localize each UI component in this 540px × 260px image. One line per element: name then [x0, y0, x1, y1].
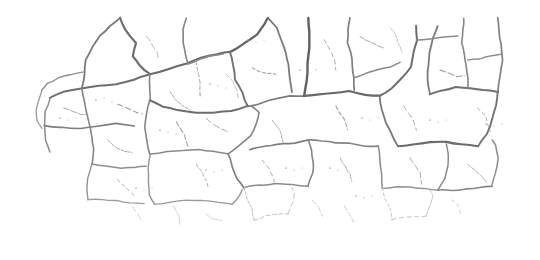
speckle-dot-23 — [301, 167, 302, 168]
speckle-dot-5 — [225, 87, 226, 88]
speckle-dot-3 — [209, 83, 211, 85]
speckle-dot-20 — [221, 169, 222, 170]
speckle-dot-35 — [501, 123, 502, 124]
speckle-dot-28 — [143, 189, 144, 190]
speckle-dot-2 — [111, 101, 112, 102]
image-background — [0, 0, 540, 260]
speckle-dot-0 — [95, 99, 97, 101]
speckle-dot-11 — [315, 69, 316, 70]
speckle-dot-13 — [369, 119, 370, 120]
speckle-dot-24 — [355, 195, 357, 197]
speckle-dot-32 — [75, 117, 76, 118]
speckle-dot-4 — [217, 85, 218, 86]
speckle-dot-30 — [59, 117, 61, 119]
speckle-dot-19 — [213, 171, 214, 172]
speckle-dot-16 — [437, 121, 438, 122]
speckle-dot-38 — [263, 39, 264, 40]
speckle-dot-10 — [307, 71, 308, 72]
speckle-dot-34 — [493, 125, 494, 126]
speckle-dot-37 — [255, 41, 256, 42]
speckle-dot-36 — [247, 39, 249, 41]
speckle-dot-9 — [299, 69, 301, 71]
speckle-dot-15 — [429, 119, 431, 121]
speckle-dot-39 — [329, 167, 331, 169]
crack-pattern-image — [0, 0, 540, 260]
speckle-dot-33 — [485, 123, 487, 125]
speckle-dot-26 — [371, 195, 372, 196]
speckle-dot-6 — [159, 129, 161, 131]
speckle-dot-41 — [345, 167, 346, 168]
speckle-dot-7 — [167, 131, 168, 132]
speckle-dot-1 — [103, 97, 104, 98]
speckle-dot-25 — [363, 197, 364, 198]
speckle-dot-22 — [293, 169, 294, 170]
speckle-dot-31 — [67, 119, 68, 120]
speckle-dot-27 — [135, 187, 137, 189]
speckle-dot-8 — [175, 133, 176, 134]
speckle-dot-29 — [151, 187, 152, 188]
speckle-dot-12 — [361, 117, 363, 119]
speckle-dot-40 — [337, 169, 338, 170]
crack-network-svg — [0, 0, 540, 260]
crack-primary-c11 — [149, 74, 150, 100]
speckle-dot-17 — [445, 119, 446, 120]
speckle-dot-14 — [377, 117, 378, 118]
speckle-dot-21 — [285, 167, 287, 169]
speckle-dot-18 — [205, 169, 207, 171]
